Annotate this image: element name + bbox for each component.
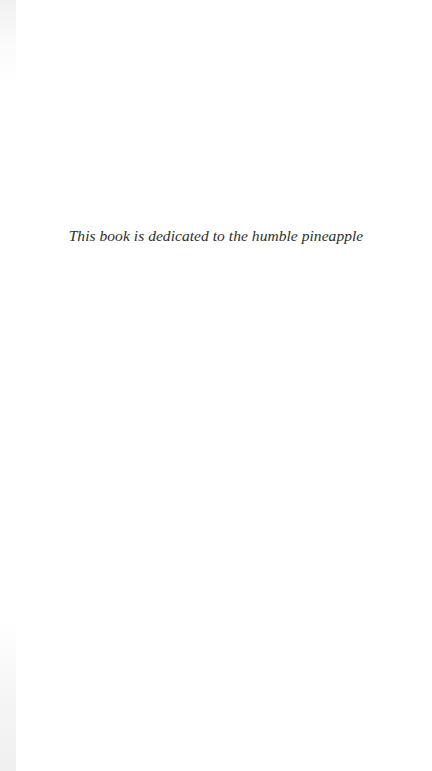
page-edge-shading <box>0 0 16 771</box>
dedication-text: This book is dedicated to the humble pin… <box>0 226 432 246</box>
book-page: This book is dedicated to the humble pin… <box>0 0 432 771</box>
